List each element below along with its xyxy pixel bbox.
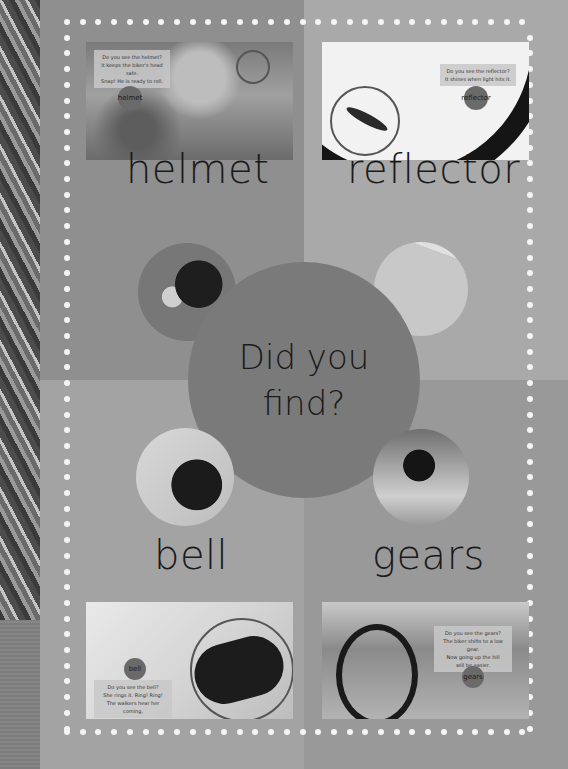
border-dot (190, 729, 196, 735)
photo-reflector: Do you see the reflector? It shines when… (322, 42, 529, 160)
center-title-line2: find? (263, 380, 346, 426)
border-dot (527, 302, 533, 308)
border-dot (378, 729, 384, 735)
border-dot (331, 19, 337, 25)
border-dot (527, 553, 533, 559)
border-dot (64, 710, 70, 716)
photo-helmet: Do you see the helmet? It keeps the bike… (86, 42, 293, 160)
border-dot (190, 19, 196, 25)
border-dot (527, 333, 533, 339)
border-dot (527, 569, 533, 575)
border-dot (64, 98, 70, 104)
caption-reflector: Do you see the reflector? It shines when… (440, 64, 516, 86)
caption-line: It keeps the biker's head safe. (98, 61, 166, 77)
border-dot (347, 729, 353, 735)
border-dot (527, 255, 533, 261)
border-dot (64, 663, 70, 669)
border-dot (527, 726, 533, 732)
border-dot (64, 443, 70, 449)
border-dot (527, 286, 533, 292)
word-reflector: reflector (347, 146, 520, 192)
caption-line: The biker shifts to a low gear. (438, 637, 508, 653)
border-dot (237, 19, 243, 25)
border-dot (127, 729, 133, 735)
border-dot (64, 349, 70, 355)
caption-line: Do you see the reflector? (444, 67, 512, 75)
border-dot (64, 129, 70, 135)
border-dot (64, 490, 70, 496)
border-dot (527, 506, 533, 512)
border-dot (527, 443, 533, 449)
border-dot (457, 19, 463, 25)
rock-background (0, 0, 42, 620)
border-dot (488, 729, 494, 735)
thumb-gears (373, 429, 469, 525)
border-dot (527, 412, 533, 418)
border-dot (64, 600, 70, 606)
tag-bell: bell (124, 658, 146, 680)
border-dot (174, 729, 180, 735)
border-dot (80, 19, 86, 25)
border-dot (64, 82, 70, 88)
caption-helmet: Do you see the helmet? It keeps the bike… (94, 50, 170, 88)
caption-line: Now going up the hill (438, 653, 508, 661)
border-dot (488, 19, 494, 25)
border-dot (64, 19, 70, 25)
caption-line: The walkers hear her coming. (98, 699, 168, 715)
tag-helmet: helmet (118, 86, 142, 110)
border-dot (284, 729, 290, 735)
road-background (0, 620, 42, 769)
border-dot (441, 729, 447, 735)
border-dot (64, 569, 70, 575)
highlight-ring (190, 618, 293, 719)
border-dot (64, 255, 70, 261)
border-dot (64, 286, 70, 292)
border-dot (64, 396, 70, 402)
border-dot (237, 729, 243, 735)
border-dot (80, 729, 86, 735)
caption-line: Do you see the gears? (438, 629, 508, 637)
caption-line: Do you see the helmet? (98, 53, 166, 61)
border-dot (64, 333, 70, 339)
border-dot (64, 459, 70, 465)
photo-gears: Do you see the gears? The biker shifts t… (322, 602, 529, 719)
border-dot (527, 459, 533, 465)
thumb-bell (136, 428, 234, 526)
book-page: Do you see the helmet? It keeps the bike… (40, 0, 568, 769)
border-dot (64, 647, 70, 653)
border-dot (127, 19, 133, 25)
word-gears: gears (372, 532, 485, 578)
border-dot (504, 729, 510, 735)
photo-bell: bell Do you see the bell? She rings it. … (86, 602, 293, 719)
border-dot (527, 490, 533, 496)
border-dot (527, 239, 533, 245)
border-dot (64, 302, 70, 308)
border-dot (331, 729, 337, 735)
border-dot (221, 729, 227, 735)
border-dot (64, 553, 70, 559)
caption-line: It shines when light hits it. (444, 75, 512, 83)
word-helmet: helmet (126, 146, 269, 192)
border-dot (300, 729, 306, 735)
word-bell: bell (154, 532, 228, 578)
border-dot (300, 19, 306, 25)
border-dot (527, 349, 533, 355)
border-dot (64, 35, 70, 41)
border-dot (64, 616, 70, 622)
caption-line: Snap! He is ready to roll. (98, 77, 166, 85)
border-dot (527, 35, 533, 41)
border-dot (174, 19, 180, 25)
border-dot (527, 176, 533, 182)
center-title-line1: Did you (239, 334, 370, 380)
highlight-ring (236, 50, 270, 84)
border-dot (527, 396, 533, 402)
wheel-shape (336, 624, 418, 719)
border-dot (64, 145, 70, 151)
border-dot (284, 19, 290, 25)
border-dot (64, 176, 70, 182)
border-dot (64, 412, 70, 418)
border-dot (527, 192, 533, 198)
border-dot (504, 19, 510, 25)
caption-bell: Do you see the bell? She rings it. Ring!… (94, 680, 172, 718)
border-dot (143, 19, 149, 25)
